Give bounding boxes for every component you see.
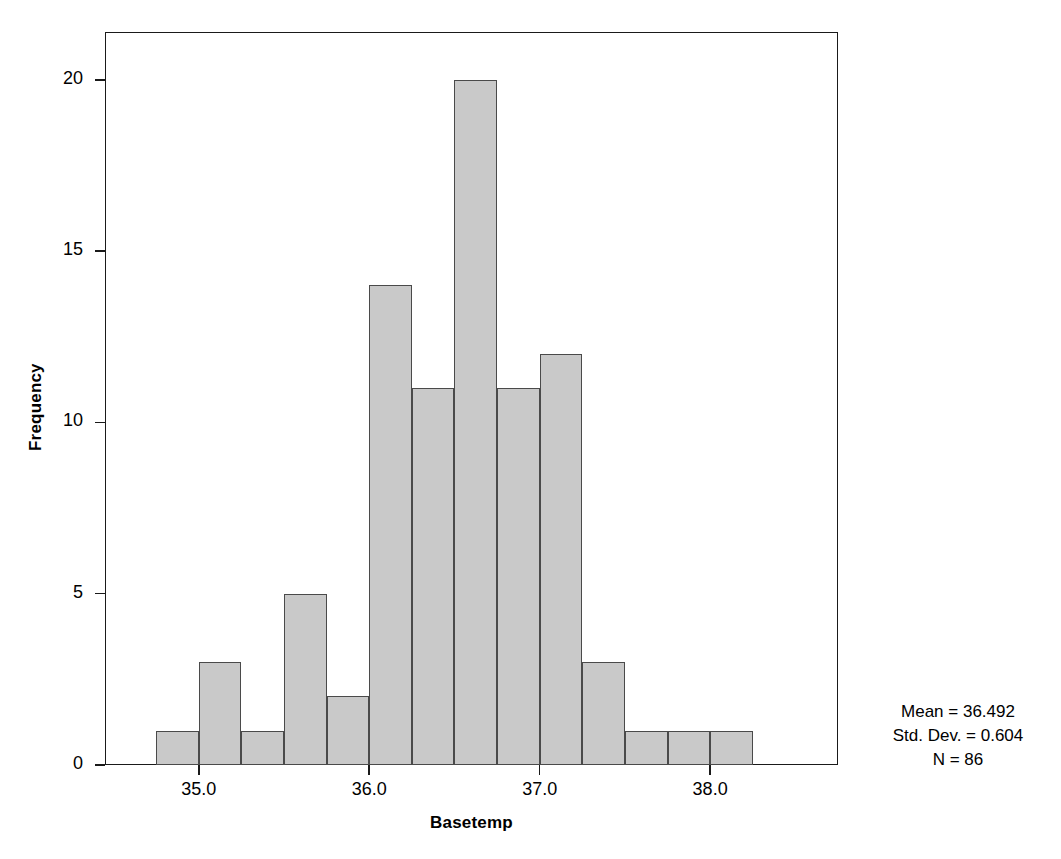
histogram-bar [369, 285, 412, 765]
x-tick-mark [709, 765, 711, 775]
stat-mean: Mean = 36.492 [858, 700, 1058, 724]
statistics-annotation: Mean = 36.492 Std. Dev. = 0.604 N = 86 [858, 700, 1058, 772]
histogram-bar [156, 731, 199, 765]
histogram-bar [582, 662, 625, 765]
x-tick-mark [198, 765, 200, 775]
histogram-bar [327, 696, 370, 765]
y-tick-mark [95, 250, 105, 252]
y-tick-label: 20 [25, 68, 83, 89]
histogram-bar [540, 354, 583, 765]
x-tick-mark [368, 765, 370, 775]
x-tick-label: 37.0 [490, 779, 590, 800]
y-tick-mark [95, 593, 105, 595]
histogram-bar [497, 388, 540, 765]
y-tick-label: 5 [25, 582, 83, 603]
histogram-bar [199, 662, 242, 765]
y-tick-mark [95, 422, 105, 424]
histogram-figure: 05101520 35.036.037.038.0 Frequency Base… [0, 0, 1061, 859]
y-tick-mark [95, 79, 105, 81]
x-tick-label: 36.0 [319, 779, 419, 800]
x-tick-label: 35.0 [149, 779, 249, 800]
histogram-bar [668, 731, 711, 765]
x-tick-mark [539, 765, 541, 775]
y-tick-mark [95, 764, 105, 766]
histogram-bar [284, 594, 327, 765]
histogram-bar [710, 731, 753, 765]
x-axis-label: Basetemp [322, 813, 622, 833]
stat-std-dev: Std. Dev. = 0.604 [858, 724, 1058, 748]
histogram-bar [412, 388, 455, 765]
y-axis-label: Frequency [26, 363, 46, 451]
histogram-bar [241, 731, 284, 765]
histogram-bar [454, 80, 497, 765]
y-tick-label: 15 [25, 239, 83, 260]
stat-n: N = 86 [858, 748, 1058, 772]
x-tick-label: 38.0 [660, 779, 760, 800]
histogram-bar [625, 731, 668, 765]
y-tick-label: 0 [25, 753, 83, 774]
